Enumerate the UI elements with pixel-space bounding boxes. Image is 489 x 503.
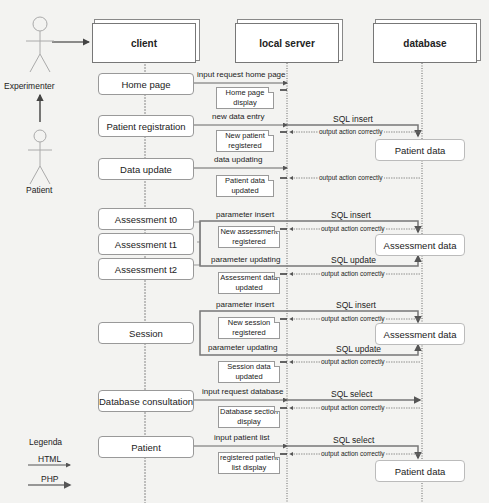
lifeline-client-header: client xyxy=(92,23,196,63)
request-label: parameter insert xyxy=(216,300,274,309)
note-registered-patient-list-display: registered patient list display xyxy=(218,452,280,474)
output-label: output action correctly xyxy=(320,358,386,365)
output-label: output action correctly xyxy=(318,128,384,135)
db-assessment-data: Assessment data xyxy=(375,323,465,345)
request-label: data updating xyxy=(214,155,263,164)
legend-item-php: PHP xyxy=(41,474,58,484)
db-assessment-data: Assessment data xyxy=(375,234,465,256)
sql-label: SQL update xyxy=(336,344,381,354)
client-step-patient-registration: Patient registration xyxy=(98,115,194,137)
sql-label: SQL insert xyxy=(331,210,371,220)
note-database-section-display: Database section display xyxy=(218,406,280,428)
request-label: parameter insert xyxy=(216,210,274,219)
output-label: output action correctly xyxy=(320,450,386,457)
request-label: parameter updating xyxy=(208,343,277,352)
output-label: output action correctly xyxy=(320,315,386,322)
client-step-assessment-t1: Assessment t1 xyxy=(98,233,194,255)
output-label: output action correctly xyxy=(320,270,386,277)
client-step-home-page: Home page xyxy=(98,73,194,95)
request-label: parameter updating xyxy=(211,255,280,264)
note-home-page-display: Home page display xyxy=(216,87,274,109)
lifeline-local-server-header: local server xyxy=(235,23,339,63)
request-label: input patient list xyxy=(214,433,270,442)
sql-label: SQL select xyxy=(331,389,372,399)
note-assessment-data-updated: Assessment data updated xyxy=(218,272,280,294)
client-step-assessment-t2: Assessment t2 xyxy=(98,258,194,280)
sql-label: SQL insert xyxy=(333,114,373,124)
client-step-patient: Patient xyxy=(98,436,194,458)
request-label: input request home page xyxy=(197,70,286,79)
output-label: output action correctly xyxy=(320,225,386,232)
client-step-database-consultation: Database consultation xyxy=(98,390,194,412)
note-new-patient-registered: New patient registered xyxy=(216,130,274,152)
output-label: output action correctly xyxy=(318,174,384,181)
legend-item-html: HTML xyxy=(38,454,61,464)
experimenter-actor-icon xyxy=(20,14,60,80)
legend-title: Legenda xyxy=(29,437,62,447)
output-label: output action correctly xyxy=(320,404,386,411)
sql-label: SQL update xyxy=(331,255,376,265)
client-step-session: Session xyxy=(98,322,194,344)
actor-patient-label: Patient xyxy=(26,185,52,195)
request-label: input request database xyxy=(202,387,283,396)
client-step-data-update: Data update xyxy=(98,158,194,180)
lifeline-database-header: database xyxy=(373,23,477,63)
client-step-assessment-t0: Assessment t0 xyxy=(98,208,194,230)
sql-label: SQL insert xyxy=(336,300,376,310)
db-patient-data: Patient data xyxy=(375,460,465,482)
note-session-data-updated: Session data updated xyxy=(218,361,280,383)
note-patient-data-updated: Patient data updated xyxy=(216,175,274,197)
request-label: new data entry xyxy=(212,112,264,121)
sql-label: SQL select xyxy=(333,435,374,445)
note-new-assessment-registered: New assessment registered xyxy=(218,226,280,248)
actor-experimenter-label: Experimenter xyxy=(4,81,55,91)
note-new-session-registered: New session registered xyxy=(218,317,280,339)
patient-actor-icon xyxy=(20,128,60,190)
db-patient-data: Patient data xyxy=(375,139,465,161)
